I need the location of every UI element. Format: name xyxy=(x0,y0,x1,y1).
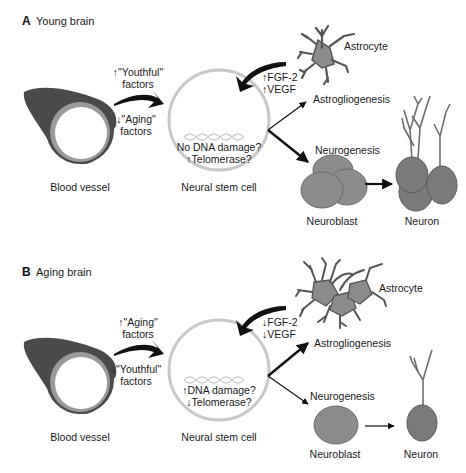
neuroblast-icon xyxy=(301,155,367,208)
blood-vessel-label: Blood vessel xyxy=(50,181,110,193)
vessel-factor-bottom-line2: factors xyxy=(120,125,152,137)
stem-cell-text-line2: ↓Telomerase? xyxy=(186,396,252,408)
blood-vessel-label: Blood vessel xyxy=(50,431,110,443)
blood-vessel-icon xyxy=(24,338,117,414)
astrocyte-icon xyxy=(298,26,354,84)
astrocyte-label: Astrocyte xyxy=(379,282,423,294)
neuron-icon xyxy=(396,96,457,211)
panel-letter: A xyxy=(22,14,31,28)
neuron-label: Neuron xyxy=(405,215,440,227)
panel-title: Aging brain xyxy=(36,266,92,278)
astrogliogenesis-label: Astrogliogenesis xyxy=(313,93,390,105)
panel-a: A Young brain Blood vessel ↑"Youthful" f… xyxy=(22,14,457,227)
arrow-neurogenesis xyxy=(268,376,308,404)
panel-letter: B xyxy=(22,265,31,279)
arrow-astrogliogenesis xyxy=(268,343,308,376)
arrow-astrogliogenesis xyxy=(268,102,306,130)
neurogenesis-label: Neurogenesis xyxy=(315,144,380,156)
curved-arrow-icon xyxy=(114,340,164,358)
niche-factor-line2: ↑VEGF xyxy=(262,83,296,95)
astrocyte-label: Astrocyte xyxy=(344,40,388,52)
niche-factor-line2: ↓VEGF xyxy=(262,328,296,340)
stem-cell-text-line2: ↑Telomerase? xyxy=(186,153,252,165)
vessel-factor-bottom-line1: ↓"Youthful" xyxy=(111,363,162,375)
niche-factor-line1: ↓FGF-2 xyxy=(262,316,298,328)
stem-cell-text-line1: No DNA damage? xyxy=(177,141,262,153)
vessel-factor-top-line2: factors xyxy=(122,78,154,90)
figure-canvas: A Young brain Blood vessel ↑"Youthful" f… xyxy=(0,0,466,473)
stem-cell-text-line1: ↑DNA damage? xyxy=(182,384,256,396)
niche-factor-line1: ↑FGF-2 xyxy=(262,71,298,83)
curved-arrow-icon xyxy=(114,90,164,108)
vessel-factor-top-line1: ↑"Youthful" xyxy=(113,66,164,78)
neuroblast-label: Neuroblast xyxy=(307,215,358,227)
neuron-label: Neuron xyxy=(404,448,439,460)
panel-title: Young brain xyxy=(36,15,94,27)
neuron-icon xyxy=(407,350,437,441)
astrocyte-cluster-icon xyxy=(296,258,386,328)
panel-b: B Aging brain Blood vessel ↑"Aging" fact… xyxy=(22,258,438,460)
neural-stem-cell-label: Neural stem cell xyxy=(181,431,256,443)
vessel-factor-bottom-line2: factors xyxy=(120,375,152,387)
neural-stem-cell-label: Neural stem cell xyxy=(181,181,256,193)
neuroblast-icon xyxy=(314,406,358,444)
blood-vessel-icon xyxy=(24,88,117,164)
neuroblast-label: Neuroblast xyxy=(310,448,361,460)
neurogenesis-label: Neurogenesis xyxy=(310,390,375,402)
vessel-factor-top-line2: factors xyxy=(122,328,154,340)
vessel-factor-bottom-line1: ↓"Aging" xyxy=(116,113,156,125)
vessel-factor-top-line1: ↑"Aging" xyxy=(118,316,158,328)
arrow-neurogenesis xyxy=(268,130,308,162)
astrogliogenesis-label: Astrogliogenesis xyxy=(314,337,391,349)
